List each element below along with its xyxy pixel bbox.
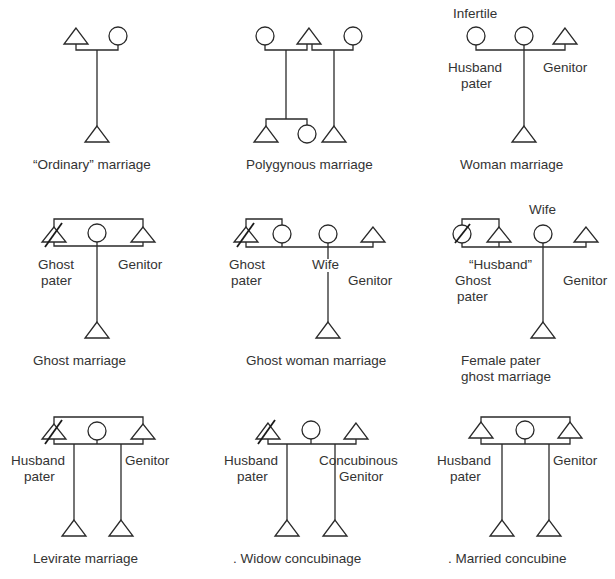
female-pater-circle-icon	[273, 225, 291, 243]
marriage-bar	[54, 242, 143, 246]
child-male-triangle-icon	[254, 126, 278, 142]
child-male-triangle-icon	[85, 322, 109, 338]
kinship-diagram-figure: “Ordinary” marriage Polygynous marriage …	[0, 0, 615, 579]
genitor-triangle-icon	[558, 422, 582, 438]
female-circle-icon	[109, 27, 127, 45]
label-genitor: Genitor	[348, 273, 393, 288]
genitor-triangle-icon	[131, 424, 155, 439]
panel-woman-marriage: Infertile Husband pater Genitor Woman ma…	[448, 6, 588, 172]
label-pater: pater	[450, 469, 481, 484]
label-husband: Husband	[11, 453, 65, 468]
label-husband-quoted: “Husband”	[469, 257, 532, 272]
caption: Polygynous marriage	[246, 157, 373, 172]
label-pater: pater	[457, 289, 488, 304]
child2-triangle-icon	[323, 520, 347, 536]
child1-triangle-icon	[490, 520, 514, 536]
concubine-circle-icon	[516, 421, 534, 439]
caption: Ghost woman marriage	[246, 353, 386, 368]
label-genitor: Genitor	[118, 257, 163, 272]
panel-married-concubine: Husband pater Genitor . Married concubin…	[437, 417, 598, 566]
caption: . Widow concubinage	[233, 551, 361, 566]
label-pater: pater	[41, 273, 72, 288]
caption: Ghost marriage	[33, 353, 126, 368]
label-pater: pater	[237, 469, 268, 484]
sibling-bracket	[266, 119, 307, 126]
label-genitor: Genitor	[125, 453, 170, 468]
child1-triangle-icon	[275, 520, 299, 536]
label-husband: Husband	[224, 453, 278, 468]
label-pater: pater	[231, 273, 262, 288]
caption: Levirate marriage	[33, 551, 138, 566]
genitor-triangle-icon	[131, 227, 155, 242]
marriage-bar	[462, 242, 586, 247]
husband-triangle-icon	[469, 422, 493, 438]
child1-triangle-icon	[62, 520, 86, 536]
genitor-triangle-icon	[553, 28, 577, 44]
label-husband: Husband	[437, 453, 491, 468]
label-concubinous: Concubinous	[319, 453, 398, 468]
wife-circle-icon	[534, 225, 552, 243]
panel-widow-concubinage: Husband pater Concubinous Genitor . Wido…	[224, 420, 398, 566]
marriage-bracket-1	[265, 44, 307, 50]
panel-ghost-woman-marriage: Ghost pater Wife Genitor Ghost woman mar…	[229, 219, 393, 368]
genitor-triangle-icon	[361, 227, 385, 242]
husband-female-circle-icon	[467, 27, 485, 45]
wife2-circle-icon	[344, 27, 362, 45]
caption: . Married concubine	[448, 551, 567, 566]
union-bar	[268, 439, 356, 444]
label-ghost: Ghost	[455, 273, 491, 288]
marriage-bracket-2	[312, 44, 353, 50]
label-pater: pater	[461, 76, 492, 91]
panel-ordinary-marriage: “Ordinary” marriage	[33, 27, 151, 172]
wife-circle-icon	[88, 422, 106, 440]
wife-circle-icon	[515, 27, 533, 45]
label-infertile: Infertile	[453, 6, 497, 21]
panel-ghost-marriage: Ghost pater Genitor Ghost marriage	[33, 219, 163, 368]
label-genitor: Genitor	[543, 60, 588, 75]
label-pater: pater	[24, 469, 55, 484]
label-ghost: Ghost	[229, 257, 265, 272]
label-genitor: Genitor	[553, 453, 598, 468]
label-genitor: Genitor	[339, 469, 384, 484]
child2-triangle-icon	[537, 520, 561, 536]
husband-triangle-icon	[297, 28, 321, 44]
male-triangle-icon	[64, 28, 88, 44]
husband-triangle-icon	[487, 227, 511, 242]
concubinous-genitor-triangle-icon	[344, 423, 368, 439]
panel-female-pater-ghost-marriage: Wife “Husband” Ghost pater Genitor Femal…	[453, 202, 608, 384]
child-male-triangle-icon	[531, 322, 555, 338]
child-female-circle-icon	[298, 125, 316, 143]
label-ghost: Ghost	[38, 257, 74, 272]
marriage-bar	[246, 242, 373, 247]
wife-circle-icon	[319, 225, 337, 243]
caption-line1: Female pater	[461, 353, 541, 368]
panel-levirate-marriage: Husband pater Genitor Levirate marriage	[11, 417, 170, 566]
caption: Woman marriage	[460, 157, 563, 172]
wife1-circle-icon	[256, 27, 274, 45]
genitor-triangle-icon	[574, 227, 598, 242]
label-genitor: Genitor	[563, 273, 608, 288]
child2-male-triangle-icon	[322, 126, 346, 142]
child2-triangle-icon	[109, 520, 133, 536]
label-husband: Husband	[448, 60, 502, 75]
caption: “Ordinary” marriage	[33, 157, 151, 172]
label-wife: Wife	[312, 257, 339, 272]
label-wife: Wife	[529, 202, 556, 217]
wife-circle-icon	[88, 224, 106, 242]
marriage-bracket	[76, 44, 118, 50]
child-male-triangle-icon	[512, 126, 536, 142]
caption-line2: ghost marriage	[461, 369, 551, 384]
panel-polygynous-marriage: Polygynous marriage	[246, 27, 373, 172]
widow-circle-icon	[302, 421, 320, 439]
child-male-triangle-icon	[85, 126, 109, 142]
child-male-triangle-icon	[316, 322, 340, 338]
